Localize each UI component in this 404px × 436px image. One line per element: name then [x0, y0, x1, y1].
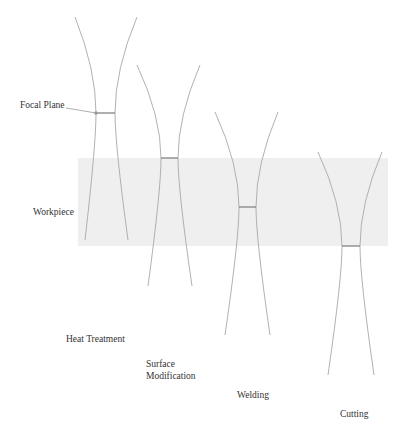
- laser-focal-plane-diagram: [0, 0, 404, 436]
- process-label-cutting: Cutting: [340, 408, 369, 420]
- process-label-line: Modification: [146, 370, 196, 382]
- pointer-dot-icon: [94, 111, 98, 115]
- pointer-line: [66, 108, 96, 113]
- process-label-welding: Welding: [237, 389, 269, 401]
- workpiece-label: Workpiece: [33, 206, 74, 218]
- process-label-surface-modification: Surface Modification: [146, 358, 196, 382]
- focal-plane-label: Focal Plane: [20, 99, 65, 111]
- process-label-heat-treatment: Heat Treatment: [66, 333, 125, 345]
- focal-plane-pointer: [66, 108, 98, 115]
- process-label-line: Surface: [146, 358, 196, 370]
